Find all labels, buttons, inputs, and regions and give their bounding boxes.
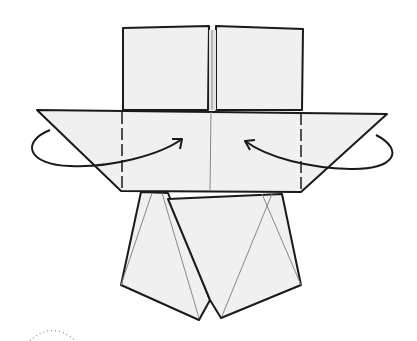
top-left-flap bbox=[123, 26, 209, 110]
origami-diagram bbox=[0, 0, 417, 341]
center-gap-strip bbox=[209, 30, 216, 110]
trapezoid-band bbox=[37, 110, 387, 192]
top-right-flap bbox=[216, 26, 303, 110]
dotted-arc-icon bbox=[30, 331, 76, 341]
